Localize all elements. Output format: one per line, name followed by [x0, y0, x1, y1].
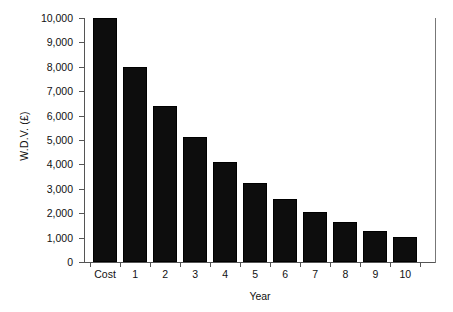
x-tick-mark — [300, 262, 301, 267]
y-tick-label: 8,000 — [25, 62, 73, 72]
x-axis-title: Year — [84, 290, 436, 302]
y-tick-mark — [79, 189, 85, 190]
y-tick-label: 3,000 — [25, 184, 73, 194]
x-tick-label: 10 — [381, 268, 429, 280]
y-tick-mark — [79, 213, 85, 214]
y-tick-label: 0 — [25, 257, 73, 267]
x-tick-mark — [360, 262, 361, 267]
y-tick-mark — [79, 116, 85, 117]
bar — [303, 212, 327, 262]
x-tick-mark — [90, 262, 91, 267]
y-tick-mark — [79, 67, 85, 68]
x-tick-mark — [150, 262, 151, 267]
y-tick-label: 6,000 — [25, 111, 73, 121]
y-tick-mark — [79, 140, 85, 141]
x-tick-mark — [210, 262, 211, 267]
bar-chart: W.D.V. (£) 01,0002,0003,0004,0005,0006,0… — [0, 0, 453, 312]
bar — [333, 222, 357, 262]
bar — [93, 18, 117, 262]
x-axis-line — [84, 262, 436, 263]
y-tick-label: 9,000 — [25, 37, 73, 47]
x-tick-mark — [420, 262, 421, 267]
bar — [393, 237, 417, 262]
y-tick-label: 1,000 — [25, 233, 73, 243]
y-tick-mark — [79, 238, 85, 239]
x-tick-mark — [330, 262, 331, 267]
x-tick-mark — [180, 262, 181, 267]
x-tick-mark — [270, 262, 271, 267]
y-tick-label: 5,000 — [25, 135, 73, 145]
y-tick-mark — [79, 262, 85, 263]
y-tick-label: 4,000 — [25, 159, 73, 169]
y-axis-tick-labels: 01,0002,0003,0004,0005,0006,0007,0008,00… — [25, 0, 73, 312]
x-tick-mark — [120, 262, 121, 267]
x-tick-mark — [240, 262, 241, 267]
y-tick-label: 2,000 — [25, 208, 73, 218]
y-tick-mark — [79, 42, 85, 43]
bar — [363, 231, 387, 262]
plot-area — [84, 18, 436, 262]
x-tick-mark — [390, 262, 391, 267]
bar — [153, 106, 177, 262]
y-tick-mark — [79, 18, 85, 19]
bar — [273, 199, 297, 262]
bar — [183, 137, 207, 262]
y-tick-mark — [79, 91, 85, 92]
bar — [243, 183, 267, 262]
y-tick-label: 10,000 — [25, 13, 73, 23]
bar — [123, 67, 147, 262]
bar — [213, 162, 237, 262]
y-tick-mark — [79, 164, 85, 165]
y-tick-label: 7,000 — [25, 86, 73, 96]
x-axis-tick-labels: Cost12345678910 — [84, 268, 436, 284]
